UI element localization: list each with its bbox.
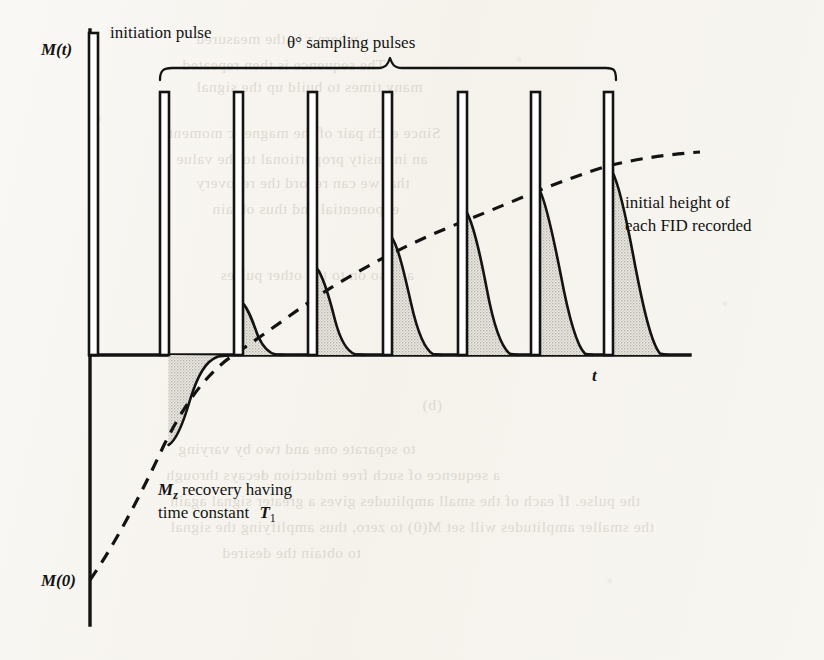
origin-value-label: M(0)	[40, 571, 76, 590]
sampling-pulse-bar-6	[531, 92, 540, 355]
y-axis-label: M(t)	[40, 40, 72, 59]
t1-symbol: T	[259, 503, 270, 522]
sampling-pulse-bar-5	[458, 92, 467, 355]
time-constant-text: time constant	[158, 503, 253, 522]
mz-recovery-label-line1: Mz recovery having	[157, 480, 293, 502]
pulses-group	[89, 33, 613, 355]
sampling-pulse-bar-3	[308, 92, 317, 355]
initiation-pulse-label: initiation pulse	[110, 23, 212, 42]
sampling-pulses-brace	[160, 58, 616, 80]
mz-symbol: M	[157, 480, 174, 499]
nmr-inversion-recovery-figure: M(t) t M(0) initiation pulse θ° sampling…	[0, 0, 824, 660]
mz-recovery-rest: recovery having	[178, 480, 293, 499]
fid-height-label-line1: initial height of	[625, 193, 730, 212]
sampling-pulses-label: θ° sampling pulses	[287, 33, 415, 52]
figure-page: where τ is the measuredThe sequence is t…	[0, 0, 824, 660]
sampling-pulse-bar-2	[234, 92, 243, 355]
fid-height-label-line2: each FID recorded	[625, 216, 752, 235]
initiation-pulse-bar	[89, 33, 98, 355]
sampling-pulse-bar-1	[160, 92, 169, 355]
mz-recovery-label-line2: time constant T1	[158, 503, 276, 525]
x-axis-label: t	[592, 366, 598, 385]
sampling-pulse-bar-7	[604, 92, 613, 355]
t1-subscript: 1	[270, 511, 276, 525]
sampling-pulse-bar-4	[383, 92, 392, 355]
